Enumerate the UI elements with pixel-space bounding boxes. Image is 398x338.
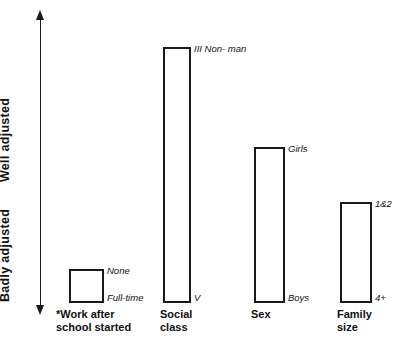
- bar-family-size-bottom-label: 4+: [375, 293, 386, 304]
- category-label-social-class: Social class: [160, 308, 192, 333]
- bar-social-class: [163, 47, 191, 303]
- bar-sex-bottom-label: Boys: [288, 293, 309, 304]
- bar-sex: [254, 147, 285, 303]
- bar-sex-top-label: Girls: [288, 144, 308, 155]
- category-label-sex: Sex: [251, 308, 271, 321]
- bar-work-bottom-label: Full-time: [107, 293, 143, 304]
- bar-work-after-school: [69, 269, 104, 303]
- category-label-family-size: Family size: [337, 308, 372, 333]
- bar-work-top-label: None: [107, 266, 130, 277]
- adjustment-range-chart: Well adjusted Badly adjusted None Full-t…: [0, 0, 398, 338]
- plot-area: None Full-time *Work after school starte…: [0, 0, 398, 338]
- bar-family-size-top-label: 1&2: [375, 199, 392, 210]
- bar-family-size: [340, 202, 372, 303]
- bar-social-class-top-label: III Non- man: [194, 44, 246, 55]
- bar-social-class-bottom-label: V: [194, 293, 200, 304]
- category-label-work-after-school: *Work after school started: [56, 308, 131, 333]
